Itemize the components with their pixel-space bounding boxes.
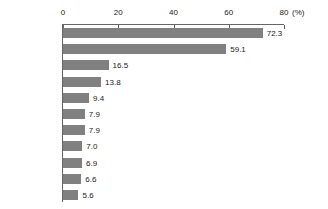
bar-value-label: 7.0 [86, 141, 97, 152]
bar-value-label: 6.9 [86, 158, 97, 169]
axis-unit-label: (%) [292, 8, 304, 18]
bar-value-label: 9.4 [93, 93, 104, 104]
x-axis-tick-label: 20 [114, 8, 123, 18]
bar [63, 158, 82, 168]
bar-value-label: 59.1 [230, 44, 246, 55]
bar [63, 109, 85, 119]
bar-value-label: 72.3 [267, 28, 283, 39]
bar [63, 28, 263, 38]
x-axis-tick-label: 60 [224, 8, 233, 18]
bar [63, 174, 81, 184]
bar-value-label: 6.6 [85, 174, 96, 185]
x-axis-tick-label: 40 [169, 8, 178, 18]
x-axis-tick-label: 0 [61, 8, 65, 18]
bar-value-label: 7.9 [89, 109, 100, 120]
bar [63, 141, 82, 151]
x-axis-tick [284, 25, 285, 29]
horizontal-bar-chart: 020406080 (%) 日本72.3韓国59.1フィンランド16.5カナダ1… [0, 0, 328, 209]
x-axis-tick-label: 80 [280, 8, 289, 18]
bar [63, 190, 78, 200]
bar [63, 125, 85, 135]
bar [63, 77, 101, 87]
bar-value-label: 7.9 [89, 125, 100, 136]
bar-value-label: 16.5 [113, 60, 129, 71]
bar-value-label: 5.6 [82, 190, 93, 201]
bar [63, 60, 109, 70]
bar-value-label: 13.8 [105, 77, 121, 88]
bar [63, 93, 89, 103]
bar [63, 44, 226, 54]
